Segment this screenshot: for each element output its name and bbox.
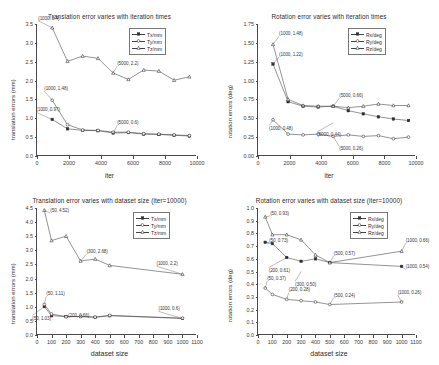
legend-swatch — [353, 232, 366, 233]
x-tick-mark — [37, 335, 38, 338]
x-tick-mark — [37, 156, 38, 159]
data-annotation: (50, 4.52) — [50, 208, 69, 213]
y-tick-label: 0.7 — [228, 243, 254, 249]
chart-panel-rotation-vs-dataset-size: Rotation error varies with dataset size … — [219, 182, 439, 365]
x-tick-mark — [416, 335, 417, 338]
data-point — [142, 132, 145, 135]
legend-item[interactable]: Ty/mm — [136, 222, 166, 229]
data-point — [314, 301, 317, 304]
x-tick-label: 6000 — [121, 160, 145, 166]
chart-panel-rotation-vs-iteration: Rotation error varies with iteration tim… — [219, 0, 439, 182]
y-tick-label: 1.25 — [228, 59, 254, 65]
data-point — [188, 75, 191, 78]
x-tick-mark — [69, 156, 70, 159]
y-tick-label: 2.5 — [7, 59, 33, 65]
data-annotation: (5000, 0.44) — [317, 132, 341, 137]
x-tick-mark — [95, 335, 96, 338]
legend-item[interactable]: Tz/mm — [132, 45, 162, 52]
data-point — [362, 135, 365, 138]
legend-item[interactable]: Tx/mm — [136, 215, 166, 222]
legend-item[interactable]: Tz/mm — [136, 229, 166, 236]
x-tick-mark — [416, 156, 417, 159]
legend-item[interactable]: Rz/deg — [353, 229, 384, 236]
legend-item[interactable]: Tx/mm — [132, 31, 162, 38]
y-tick-label: 0.0 — [228, 332, 254, 338]
y-tick-label: 0.25 — [228, 134, 254, 140]
y-tick-label: 1.5 — [7, 290, 33, 296]
data-point — [65, 235, 68, 238]
x-tick-mark — [373, 335, 374, 338]
y-tick-label: 2.0 — [7, 78, 33, 84]
legend-swatch — [136, 232, 149, 233]
x-tick-mark — [353, 156, 354, 159]
x-tick-mark — [344, 335, 345, 338]
x-tick-mark — [387, 335, 388, 338]
data-point — [158, 133, 161, 136]
x-axis-label: dataset size — [219, 350, 439, 357]
data-point — [97, 129, 100, 132]
legend-swatch — [136, 218, 149, 219]
data-annotation: (5000, 0.66) — [339, 93, 363, 98]
data-point — [94, 316, 97, 319]
legend-label: Ry/deg — [368, 223, 384, 229]
y-tick-label: 1.0 — [7, 115, 33, 121]
chart-panel-translation-vs-iteration: Translation error varies with iteration … — [0, 0, 219, 182]
x-tick-mark — [66, 335, 67, 338]
data-point — [377, 102, 380, 105]
annotation-leader — [37, 24, 38, 25]
legend-swatch — [351, 48, 364, 49]
legend-item[interactable]: Rz/deg — [351, 45, 382, 52]
data-annotation: (500, 0.24) — [334, 293, 355, 298]
data-point — [347, 134, 350, 137]
x-axis-label: iter — [0, 172, 219, 179]
x-tick-mark — [139, 335, 140, 338]
data-annotation: (500, 0.57) — [334, 251, 355, 256]
data-point — [300, 260, 303, 263]
data-annotation: (50, 1.11) — [46, 291, 64, 296]
data-annotation: (1000, 0.48) — [269, 126, 293, 131]
y-tick-label: 1.5 — [7, 96, 33, 102]
data-point — [108, 314, 111, 317]
x-tick-label: 10000 — [185, 160, 209, 166]
x-tick-mark — [384, 156, 385, 159]
data-point — [300, 299, 303, 302]
legend-label: Ty/mm — [151, 223, 166, 229]
legend-label: Rz/deg — [368, 230, 384, 236]
x-tick-mark — [101, 156, 102, 159]
y-tick-label: 0.50 — [228, 115, 254, 121]
y-tick-label: 1.0 — [228, 205, 254, 211]
data-annotation: (200, 0.28) — [289, 287, 310, 292]
legend: Tx/mmTy/mmTz/mm — [129, 28, 166, 55]
data-point — [127, 131, 130, 134]
x-tick-label: 6000 — [341, 160, 365, 166]
legend-swatch — [136, 225, 149, 226]
legend: Rx/degRy/degRz/deg — [348, 28, 386, 55]
legend-label: Rx/deg — [366, 32, 382, 38]
legend-swatch — [351, 41, 364, 42]
x-tick-label: 2000 — [57, 160, 81, 166]
annotation-leader — [37, 208, 38, 209]
legend: Tx/mmTy/mmTz/mm — [133, 212, 170, 239]
y-tick-label: 1.00 — [228, 78, 254, 84]
x-tick-mark — [359, 335, 360, 338]
x-tick-label: 4000 — [89, 160, 113, 166]
panel-title: Translation error varies with dataset si… — [0, 197, 219, 204]
y-tick-label: 0.8 — [228, 230, 254, 236]
figure-grid: Translation error varies with iteration … — [0, 0, 439, 365]
annotation-leader — [258, 208, 259, 209]
legend-item[interactable]: Ry/deg — [351, 38, 382, 45]
data-point — [392, 118, 395, 121]
data-annotation: (50, 0.37) — [267, 276, 286, 281]
legend-label: Ty/mm — [147, 39, 162, 45]
x-tick-mark — [124, 335, 125, 338]
legend-item[interactable]: Ty/mm — [132, 38, 162, 45]
legend-item[interactable]: Rx/deg — [351, 31, 382, 38]
panel-title: Rotation error varies with iteration tim… — [219, 13, 439, 20]
data-annotation: (50, 0.93) — [270, 211, 289, 216]
y-tick-label: 0.3 — [228, 294, 254, 300]
x-tick-label: 0 — [25, 160, 49, 166]
x-tick-mark — [153, 335, 154, 338]
data-annotation: (1000, 1.22) — [279, 52, 303, 57]
legend-item[interactable]: Ry/deg — [353, 222, 384, 229]
legend-item[interactable]: Rx/deg — [353, 215, 384, 222]
